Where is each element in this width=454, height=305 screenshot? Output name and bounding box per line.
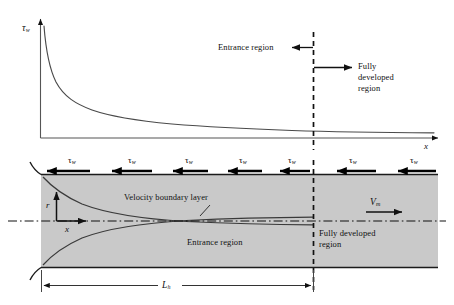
tau-subscript: w (414, 159, 418, 165)
top-chart-y-axis-label: τw (22, 22, 30, 35)
tau-subscript: w (72, 159, 76, 165)
pipe-entrance-region-figure: τw x Entrance region Fully developed reg… (0, 0, 454, 305)
axial-axis-label: x (65, 224, 69, 236)
tau-subscript: w (189, 159, 193, 165)
pipe-inlet-lip-lower (30, 268, 41, 281)
shear-stress-label-2: τw (128, 155, 136, 165)
tau-subscript: w (243, 159, 247, 165)
entry-length-label: Lh (162, 279, 171, 292)
entry-length-dimension (42, 270, 314, 292)
tau-subscript: w (292, 159, 296, 165)
shear-stress-label-7: τw (410, 155, 418, 165)
fully-developed-lower-line-2: region (319, 239, 376, 250)
velocity-boundary-layer-label: Velocity boundary layer (124, 192, 208, 203)
mean-velocity-label: Vm (370, 196, 380, 209)
fully-developed-line-2: developed (358, 72, 394, 83)
pipe-inlet-lip-upper (30, 162, 41, 175)
fully-developed-region-label-top: Fully developed region (358, 61, 394, 94)
velocity-subscript: m (376, 201, 380, 207)
entrance-region-label-lower: Entrance region (187, 237, 243, 248)
length-subscript: h (167, 284, 170, 290)
tau-subscript: w (132, 159, 136, 165)
shear-stress-label-6: τw (349, 155, 357, 165)
shear-stress-label-1: τw (68, 155, 76, 165)
fully-developed-line-1: Fully (358, 61, 394, 72)
fully-developed-lower-line-1: Fully developed (319, 228, 376, 239)
shear-stress-label-4: τw (239, 155, 247, 165)
fully-developed-region-label-lower: Fully developed region (319, 228, 376, 250)
tau-subscript: w (26, 27, 30, 33)
tau-subscript: w (353, 159, 357, 165)
fully-developed-line-3: region (358, 83, 394, 94)
shear-stress-label-5: τw (288, 155, 296, 165)
entrance-region-label-top: Entrance region (218, 42, 274, 53)
shear-stress-label-3: τw (185, 155, 193, 165)
radial-axis-label: r (46, 200, 50, 212)
top-chart-x-axis-label: x (424, 141, 428, 153)
